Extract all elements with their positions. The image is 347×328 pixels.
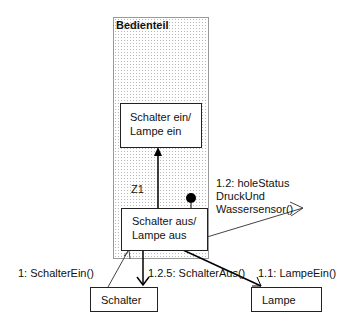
message-1-2-line3: Wassersensor() [216,202,293,216]
transition-label-z1: Z1 [131,182,144,196]
message-1-2-line2: DruckUnd [216,189,265,203]
message-1-1: 1.1: LampeEin() [258,266,336,280]
object-lampe: Lampe [251,287,322,312]
state-upper-line2: Lampe ein [130,124,201,138]
state-upper-line1: Schalter ein/ [130,110,201,124]
state-lower-line2: Lampe aus [132,228,207,242]
object-schalter: Schalter [90,287,158,312]
message-1: 1: SchalterEin() [18,266,94,280]
message-1-2-5: 1.2.5: SchalterAus() [148,266,245,280]
object-schalter-label: Schalter [101,294,141,306]
state-lower: Schalter aus/ Lampe aus [121,208,208,251]
message-1-2-line1: 1.2: holeStatus [216,176,289,190]
object-lampe-label: Lampe [262,294,296,306]
state-upper: Schalter ein/ Lampe ein [120,103,202,148]
state-lower-line1: Schalter aus/ [132,214,207,228]
